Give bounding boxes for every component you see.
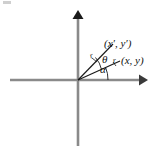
label-rotated-point: (x′, y′) [104,38,131,49]
rotation-diagram: (x′, y′) (x, y) θ α r r [0,0,157,150]
y-axis-arrowhead-icon [73,10,84,19]
axes-group [10,10,148,146]
label-angle-alpha: α [100,64,106,75]
diagram-canvas [0,0,157,150]
x-axis-arrowhead-icon [139,75,148,86]
label-original-point: (x, y) [121,55,144,66]
